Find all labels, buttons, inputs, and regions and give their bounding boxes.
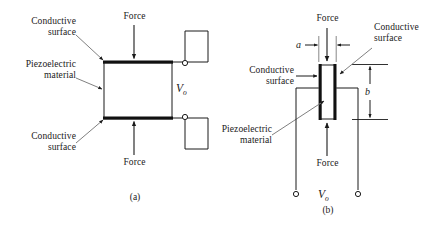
panel-b-terminal-left: [293, 191, 298, 196]
panel-a-bottom-electrode: [103, 117, 173, 120]
panel-b-left-electrode: [319, 64, 322, 120]
panel-b-caption: (b): [303, 205, 353, 215]
panel-a-terminal-top: [182, 60, 187, 65]
panel-b-dimension-a-label: a: [296, 39, 301, 50]
panel-a-label-force-bottom: Force: [112, 157, 157, 168]
panel-a-terminal-bottom: [182, 114, 187, 119]
panel-a-output-voltage: Vo: [176, 82, 187, 97]
panel-b-terminal-right: [355, 191, 360, 196]
panel-b-voltage-subscript: o: [325, 194, 329, 203]
panel-b-label-piezo: Piezoelectric material: [208, 124, 272, 146]
panel-b-label-force-bottom: Force: [305, 158, 350, 169]
panel-b-leader-right-conductive: [340, 48, 372, 74]
panel-b-right-electrode: [333, 64, 336, 120]
panel-b-label-right-conductive: Conductive surface: [374, 22, 439, 44]
panel-a-top-electrode: [103, 61, 173, 64]
panel-a-leader-top-conductive: [76, 35, 103, 60]
panel-b-label-left-conductive: Conductive surface: [222, 65, 294, 87]
panel-b-piezo-block: [319, 64, 337, 120]
panel-a-caption: (a): [110, 192, 160, 202]
panel-b-voltage-symbol: V: [318, 188, 325, 200]
panel-a-leader-bottom-conductive: [76, 120, 103, 143]
panel-b-leader-piezo: [272, 101, 324, 135]
panel-a-label-top-conductive: Conductive surface: [6, 16, 76, 38]
panel-a-leader-piezo: [76, 78, 102, 89]
panel-a-piezo-block: [103, 61, 173, 120]
panel-a-voltage-symbol: V: [176, 82, 183, 94]
panel-b-output-voltage: Vo: [318, 188, 329, 203]
panel-b-dimension-b: [352, 65, 388, 120]
panel-a-label-bottom-conductive: Conductive surface: [6, 131, 76, 153]
panel-a-label-force-top: Force: [112, 11, 157, 22]
panel-a-voltage-subscript: o: [183, 88, 187, 97]
piezoelectric-sensor-figure: Conductive surface Piezoelectric materia…: [0, 0, 439, 226]
panel-b-label-force-top: Force: [305, 13, 350, 24]
panel-b-dimension-b-label: b: [365, 86, 370, 97]
panel-a-label-piezo: Piezoelectric material: [0, 59, 76, 81]
